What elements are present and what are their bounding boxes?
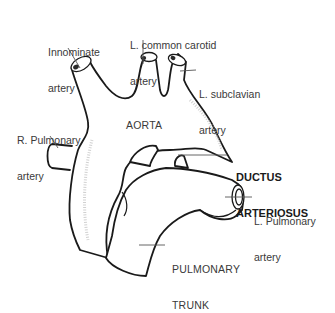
l-pulmonary-line1: L. Pulmonary (254, 215, 316, 227)
aorta-label: AORTA (126, 119, 162, 131)
l-subclavian-line2: artery (199, 124, 260, 136)
l-subclavian-line1: L. subclavian (199, 88, 260, 100)
r-pulmonary-artery-label: R. Pulmonary artery (17, 110, 81, 194)
r-pulmonary-line2: artery (17, 170, 81, 182)
ductus-line1: DUCTUS (236, 171, 308, 183)
r-pulmonary-line1: R. Pulmonary (17, 134, 81, 146)
l-pulmonary-artery-label: L. Pulmonary artery (254, 191, 316, 275)
innominate-artery-label: Innominate artery (48, 22, 100, 106)
pulmonary-trunk-line1: PULMONARY (172, 263, 240, 275)
l-common-carotid-line1: L. common carotid (130, 39, 216, 51)
pulmonary-trunk-label: PULMONARY TRUNK (172, 239, 240, 313)
innominate-line1: Innominate (48, 46, 100, 58)
pulmonary-trunk-line2: TRUNK (172, 299, 240, 311)
innominate-line2: artery (48, 82, 100, 94)
l-pulmonary-line2: artery (254, 251, 316, 263)
l-subclavian-label: L. subclavian artery (199, 64, 260, 148)
